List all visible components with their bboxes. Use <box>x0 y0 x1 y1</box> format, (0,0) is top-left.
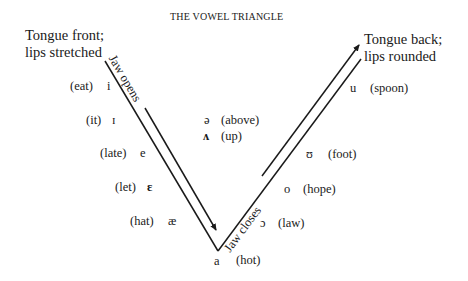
vowel-symbol: u <box>350 82 356 95</box>
vowel-symbol: e <box>140 147 146 160</box>
top-left-line-2: lips stretched <box>25 44 104 61</box>
top-left-line-1: Tongue front; <box>25 27 104 44</box>
vowel-example: (spoon) <box>370 82 408 95</box>
vowel-symbol: ʊ <box>306 148 313 161</box>
vowel-example: (it) <box>86 114 101 127</box>
vowel-symbol: ɛ <box>147 181 152 194</box>
vowel-example: (hat) <box>130 215 154 228</box>
vowel-symbol: o <box>284 183 290 196</box>
vowel-example: (foot) <box>328 148 356 161</box>
vowel-symbol: ɔ <box>260 217 266 230</box>
top-right-label: Tongue back; lips rounded <box>364 31 442 65</box>
vowel-symbol: ə <box>204 114 210 127</box>
vowel-symbol: i <box>107 80 110 93</box>
vowel-example: (hot) <box>236 254 260 267</box>
top-right-line-2: lips rounded <box>364 48 442 65</box>
vowel-symbol: ɪ <box>112 114 115 127</box>
vowel-example: (hope) <box>303 183 336 196</box>
top-left-label: Tongue front; lips stretched <box>25 27 104 61</box>
top-right-line-1: Tongue back; <box>364 31 442 48</box>
vowel-example: (late) <box>100 147 126 160</box>
vowel-symbol: a <box>214 255 220 268</box>
vowel-example: (law) <box>278 217 304 230</box>
vowel-example: (above) <box>221 114 259 127</box>
diagram-title: THE VOWEL TRIANGLE <box>170 12 283 22</box>
vowel-example: (eat) <box>70 80 93 93</box>
vowel-symbol: æ <box>168 215 176 228</box>
vowel-symbol: ʌ <box>203 130 209 143</box>
vowel-example: (up) <box>221 130 242 143</box>
vowel-example: (let) <box>115 181 136 194</box>
